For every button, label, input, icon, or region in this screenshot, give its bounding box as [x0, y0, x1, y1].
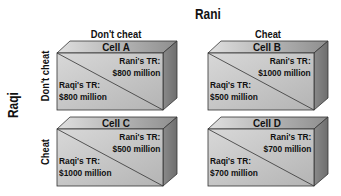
row-player-label: Raqi	[5, 92, 21, 118]
cell-title: Cell C	[69, 117, 163, 129]
column-player-label: Rani	[195, 6, 221, 22]
cell-c: Cell C Rani's TR:$500 million Raqi's TR:…	[56, 116, 178, 188]
rani-payoff: Rani's TR:$1000 million	[258, 55, 311, 79]
raqi-payoff: Raqi's TR:$1000 million	[59, 155, 112, 179]
raqi-payoff: Raqi's TR:$700 million	[210, 155, 258, 179]
column-header-dont-cheat: Don't cheat	[69, 28, 163, 40]
column-header-cheat: Cheat	[221, 28, 315, 40]
raqi-payoff: Raqi's TR:$500 million	[210, 79, 258, 103]
cell-a: Cell A Rani's TR:$800 million Raqi's TR:…	[56, 40, 178, 112]
row-header-dont-cheat: Don't cheat	[39, 46, 51, 106]
cell-d: Cell D Rani's TR:$700 million Raqi's TR:…	[207, 116, 329, 188]
cell-b: Cell B Rani's TR:$1000 million Raqi's TR…	[207, 40, 329, 112]
cell-title: Cell D	[220, 117, 314, 129]
rani-payoff: Rani's TR:$700 million	[263, 131, 311, 155]
cell-title: Cell A	[69, 41, 163, 53]
row-header-cheat: Cheat	[39, 122, 51, 182]
rani-payoff: Rani's TR:$800 million	[112, 55, 160, 79]
raqi-payoff: Raqi's TR:$800 million	[59, 79, 107, 103]
rani-payoff: Rani's TR:$500 million	[112, 131, 160, 155]
cell-title: Cell B	[220, 41, 314, 53]
